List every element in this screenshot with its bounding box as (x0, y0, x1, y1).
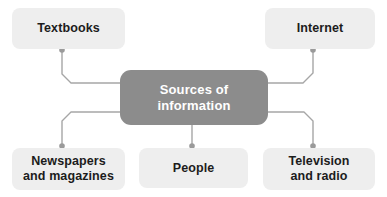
node-center-topic[interactable]: Sources of information (120, 70, 268, 125)
connector-textbooks (62, 51, 120, 83)
node-newspapers-and-magazines[interactable]: Newspapers and magazines (12, 148, 125, 190)
node-television-and-radio-label: Television and radio (288, 154, 349, 184)
node-people-label: People (173, 161, 215, 176)
connector-television (268, 112, 313, 145)
node-television-and-radio[interactable]: Television and radio (263, 148, 375, 190)
node-newspapers-and-magazines-label: Newspapers and magazines (23, 154, 114, 184)
connector-newspapers (62, 112, 120, 145)
node-center-topic-label: Sources of information (157, 82, 230, 113)
node-textbooks-label: Textbooks (37, 21, 100, 36)
node-textbooks[interactable]: Textbooks (12, 8, 125, 49)
node-internet[interactable]: Internet (265, 8, 375, 49)
node-people[interactable]: People (139, 148, 248, 188)
connector-internet (268, 51, 313, 83)
mind-map-diagram: Textbooks Internet Sources of informatio… (0, 0, 387, 197)
node-internet-label: Internet (297, 21, 344, 36)
